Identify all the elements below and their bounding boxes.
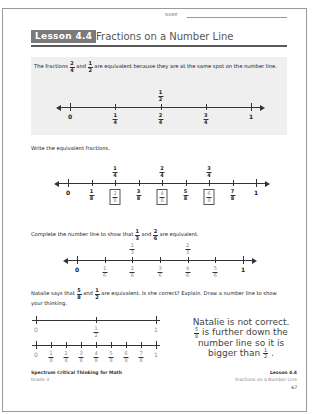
tick-label: 48 <box>157 189 168 205</box>
tick-mark <box>139 180 140 186</box>
tick-mark <box>243 256 244 264</box>
tick-mark <box>188 257 189 263</box>
tick-mark <box>156 316 157 324</box>
footer-lesson-title: Fractions on a Number Line <box>235 377 297 382</box>
tick-label: 38 <box>136 189 141 201</box>
tick-mark <box>156 341 157 349</box>
tick-label: 14 <box>113 166 118 178</box>
tick-label: 58 <box>109 351 114 363</box>
tick-label: 1 <box>254 189 258 196</box>
tick-label: 38 <box>79 351 84 363</box>
tick-label: 0 <box>75 266 79 273</box>
intro-text: The fractions 24 and 12 are equivalent b… <box>34 61 284 73</box>
tick-mark <box>36 341 37 349</box>
page-number: 67 <box>291 385 297 390</box>
tick-label: 34 <box>207 166 212 178</box>
footer-grade: Grade 3 <box>31 377 49 382</box>
tick-mark <box>209 180 210 186</box>
tick-mark <box>206 104 207 110</box>
arrow-left-icon <box>56 105 61 111</box>
tick-mark <box>96 342 97 348</box>
tick-mark <box>36 316 37 324</box>
tick-label: 28 <box>64 351 69 363</box>
tick-mark <box>186 180 187 186</box>
tick-mark <box>256 179 257 187</box>
tick-mark <box>115 180 116 186</box>
tick-label: 1 <box>154 326 158 333</box>
tick-mark <box>66 342 67 348</box>
tick-mark <box>126 342 127 348</box>
tick-label: 48 <box>94 351 99 363</box>
tick-mark <box>77 256 78 264</box>
tick-mark <box>162 180 163 186</box>
tick-label: 28 <box>110 189 121 205</box>
tick-mark <box>115 104 116 110</box>
section4-question: Natalie says that 58 and 12 are equivale… <box>31 288 281 307</box>
tick-label: 0 <box>68 113 72 120</box>
tick-label: 16 <box>102 266 107 278</box>
tick-label: 78 <box>230 189 235 201</box>
tick-mark <box>111 342 112 348</box>
section3-instruction: Complete the number line to show that 13… <box>31 229 199 241</box>
name-input-line[interactable] <box>187 17 287 18</box>
tick-mark <box>92 180 93 186</box>
handwritten-answer: Natalie is not correct. 58 is further do… <box>186 318 296 359</box>
tick-label: 1 <box>241 266 245 273</box>
arrow-left-icon <box>54 181 59 187</box>
lesson-title: Fractions on a Number Line <box>96 30 233 43</box>
tick-label: 24 <box>160 166 165 178</box>
tick-label: 68 <box>124 351 129 363</box>
tick-mark <box>233 180 234 186</box>
tick-mark <box>68 179 69 187</box>
arrow-right-icon <box>252 258 257 264</box>
footer-book-title: Spectrum Critical Thinking for Math <box>31 370 122 375</box>
tick-label: 68 <box>204 189 215 205</box>
tick-label: 24 <box>158 113 163 125</box>
name-label: NAME <box>165 12 178 17</box>
fraction: 24 <box>70 61 75 73</box>
tick-mark <box>141 342 142 348</box>
arrow-right-icon <box>265 181 270 187</box>
tick-label: 12 <box>94 326 99 338</box>
tick-label: 78 <box>139 351 144 363</box>
tick-label: 1 <box>154 351 158 358</box>
arrow-left-icon <box>63 258 68 264</box>
arrow-right-icon <box>260 105 265 111</box>
tick-label: 26 <box>130 266 135 278</box>
tick-label: 56 <box>213 266 218 278</box>
tick-mark <box>161 104 162 110</box>
tick-label: 12 <box>158 90 163 102</box>
tick-label: 13 <box>130 243 135 255</box>
lesson-badge: Lesson 4.4 <box>31 30 96 43</box>
tick-label: 1 <box>249 113 253 120</box>
tick-label: 46 <box>185 266 190 278</box>
tick-label: 14 <box>113 113 118 125</box>
section2-instruction: Write the equivalent fractions. <box>31 145 110 152</box>
tick-label: 0 <box>66 189 70 196</box>
tick-label: 23 <box>185 243 190 255</box>
tick-mark <box>70 103 71 111</box>
tick-label: 36 <box>158 266 163 278</box>
tick-mark <box>105 257 106 263</box>
tick-mark <box>81 342 82 348</box>
tick-label: 0 <box>34 326 38 333</box>
tick-mark <box>96 317 97 323</box>
footer-lesson: Lesson 4.4 <box>270 370 297 375</box>
tick-label: 58 <box>183 189 188 201</box>
tick-mark <box>132 257 133 263</box>
tick-label: 0 <box>34 351 38 358</box>
tick-label: 18 <box>89 189 94 201</box>
tick-label: 34 <box>203 113 208 125</box>
title-divider <box>31 45 287 47</box>
tick-mark <box>215 257 216 263</box>
fraction: 12 <box>88 61 93 73</box>
tick-mark <box>251 103 252 111</box>
tick-mark <box>160 257 161 263</box>
tick-mark <box>51 342 52 348</box>
tick-label: 18 <box>49 351 54 363</box>
